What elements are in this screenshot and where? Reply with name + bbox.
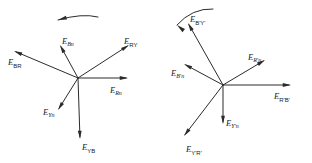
vector-shaft [78, 78, 80, 137]
arrowhead-icon [58, 102, 64, 110]
label-E-BR: EBR [7, 57, 22, 68]
label-E-Ypn: EY'n [225, 118, 239, 129]
left-rotation-arrow-icon [58, 16, 98, 20]
label-E-BpYp: EB'Y' [189, 14, 206, 25]
arrowhead-icon [184, 64, 192, 70]
vector-E-Rn [78, 76, 128, 80]
label-E-Bpn: EB'n [170, 68, 184, 79]
vector-shaft [223, 61, 263, 85]
arrowhead-icon [60, 45, 66, 53]
arrowhead-icon [177, 25, 185, 32]
label-E-RY: ERY [123, 36, 137, 47]
label-E-YpRp: EY'R' [185, 144, 202, 155]
vector-E-RY [78, 45, 129, 78]
label-E-Rn: ERn [109, 85, 122, 96]
vector-E-Yn [58, 78, 78, 110]
vector-E-Ypn [221, 85, 225, 124]
vector-shaft [185, 85, 223, 134]
arrowhead-icon [78, 131, 82, 139]
vector-shaft [16, 52, 78, 78]
vector-E-YpRp [184, 85, 223, 136]
arrowhead-icon [188, 23, 194, 31]
phasor-diagram-figure: EBREBnERYERnEYnEYBEB'Y'EB'nER'nER'B'EY'n… [0, 0, 312, 163]
label-E-Bn: EBn [61, 36, 74, 47]
vector-E-YB [78, 78, 82, 139]
label-E-YB: EYB [81, 142, 95, 153]
vector-shaft [78, 46, 127, 78]
vector-E-BR [14, 51, 78, 78]
phasor-diagram-canvas: EBREBnERYERnEYnEYBEB'Y'EB'nER'nER'B'EY'n… [0, 0, 312, 163]
arrowhead-icon [221, 116, 225, 124]
arrowhead-icon [58, 16, 67, 20]
label-E-Yn: EYn [42, 107, 55, 118]
arrowhead-icon [120, 76, 128, 80]
vector-E-Bn [60, 45, 78, 78]
left-phasor-diagram: EBREBnERYERnEYnEYB [7, 16, 137, 154]
arrowhead-icon [14, 51, 22, 56]
vector-E-RpBp [223, 83, 291, 87]
arrowhead-icon [283, 83, 291, 87]
vector-E-Rpn [223, 60, 265, 85]
label-E-RpBp: ER'B' [273, 91, 290, 102]
label-E-Rpn: ER'n [247, 52, 261, 63]
right-phasor-diagram: EB'Y'EB'nER'nER'B'EY'nEY'R' [170, 9, 291, 155]
